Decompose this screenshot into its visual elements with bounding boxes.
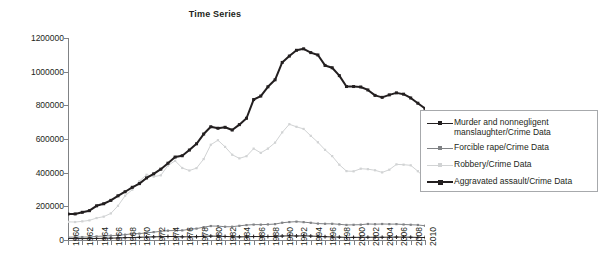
series-marker [110, 235, 112, 237]
series-marker [374, 94, 377, 97]
legend-item[interactable]: Aggravated assault/Crime Data [426, 176, 592, 188]
series-marker [395, 91, 398, 94]
series-marker [309, 234, 313, 238]
x-axis-tick [82, 241, 83, 245]
x-axis-tick [354, 241, 355, 245]
x-axis-tick [311, 241, 312, 245]
series-marker [331, 66, 334, 69]
series-marker [260, 224, 262, 226]
x-axis-tick [325, 241, 326, 245]
y-axis-labels: 020000040000060000080000010000001200000 [4, 0, 64, 279]
series-marker [188, 149, 191, 152]
series-marker [352, 235, 356, 239]
x-axis-tick [368, 241, 369, 245]
series-marker [253, 224, 255, 226]
x-axis-tick [139, 241, 140, 245]
series-marker [331, 223, 333, 225]
x-axis-tick [282, 241, 283, 245]
x-axis-tick [268, 241, 269, 245]
series-marker [68, 236, 69, 238]
series-marker [153, 176, 155, 178]
series-marker [417, 170, 419, 172]
legend-item[interactable]: Robbery/Crime Data [426, 159, 592, 171]
series-marker [124, 190, 127, 193]
x-axis-tick [225, 241, 226, 245]
x-axis-tick-label: 2010 [429, 227, 437, 246]
series-marker [116, 194, 119, 197]
y-axis-tick-label: 600000 [8, 135, 64, 143]
series-marker [267, 223, 269, 225]
legend-item[interactable]: Forcible rape/Crime Data [426, 142, 592, 154]
y-axis-tick [64, 206, 69, 207]
series-marker [281, 131, 283, 133]
series-marker [110, 212, 112, 214]
series-marker [324, 223, 326, 225]
y-axis-tick [64, 139, 69, 140]
series-marker [224, 126, 227, 129]
x-axis-tick-label: 1972 [158, 227, 166, 246]
series-marker [188, 169, 190, 171]
series-marker [174, 156, 177, 159]
data-series [68, 123, 425, 223]
series-marker [281, 222, 283, 224]
x-axis-tick [97, 241, 98, 245]
series-marker [74, 212, 77, 215]
x-axis-tick-label: 2000 [358, 227, 366, 246]
series-marker [267, 148, 269, 150]
series-marker [231, 154, 233, 156]
x-axis-tick-label: 2004 [386, 227, 394, 246]
legend-label: Robbery/Crime Data [454, 159, 531, 169]
chart-legend: Murder and nonnegligent manslaughter/Cri… [420, 110, 598, 192]
series-marker [345, 170, 347, 172]
chart-title: Time Series [0, 9, 430, 19]
legend-marker-icon [426, 143, 454, 154]
series-marker [338, 223, 340, 225]
series-marker [68, 213, 70, 216]
x-axis-tick [411, 241, 412, 245]
series-marker [381, 223, 383, 225]
series-marker [160, 174, 162, 176]
series-marker [359, 85, 362, 88]
series-marker [395, 235, 399, 239]
x-axis-tick [396, 241, 397, 245]
x-axis-tick-label: 1994 [315, 227, 323, 246]
series-marker [88, 219, 90, 221]
x-axis-tick [339, 241, 340, 245]
y-axis-tick-label: 400000 [8, 169, 64, 177]
series-marker [295, 234, 299, 238]
series-marker [295, 221, 297, 223]
y-axis-tick-label: 800000 [8, 101, 64, 109]
series-marker [238, 157, 240, 159]
series-marker [152, 235, 156, 239]
series-marker [317, 141, 319, 143]
x-axis-tick [211, 241, 212, 245]
series-marker [345, 224, 347, 226]
series-marker [310, 135, 312, 137]
series-marker [145, 174, 147, 176]
series-marker [253, 148, 255, 150]
series-marker [288, 55, 291, 58]
series-marker [352, 85, 355, 88]
series-marker [124, 234, 126, 236]
x-axis-tick-label: 1980 [215, 227, 223, 246]
series-marker [195, 167, 197, 169]
series-marker [417, 224, 419, 226]
series-marker [288, 123, 290, 125]
series-marker [260, 152, 262, 154]
chart-figure: Time Series 0200000400000600000800000100… [0, 0, 606, 279]
series-marker [310, 222, 312, 224]
y-axis-tick [64, 173, 69, 174]
x-axis-tick-label: 2002 [372, 227, 380, 246]
series-marker [216, 127, 219, 130]
series-marker [166, 162, 169, 165]
series-marker [331, 155, 333, 157]
series-marker [95, 235, 97, 237]
legend-item[interactable]: Murder and nonnegligent manslaughter/Cri… [426, 117, 592, 137]
x-axis-tick-label: 2006 [400, 227, 408, 246]
series-marker [210, 144, 212, 146]
series-marker [281, 61, 284, 64]
series-marker [224, 226, 226, 228]
legend-label: Aggravated assault/Crime Data [454, 176, 572, 186]
series-marker [274, 142, 276, 144]
series-marker [309, 51, 312, 54]
